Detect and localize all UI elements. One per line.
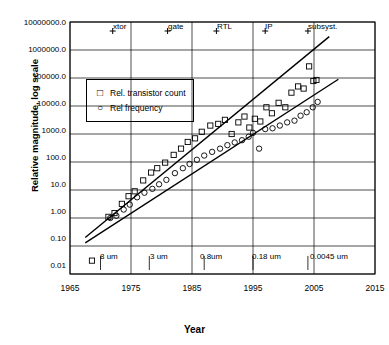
plot-canvas — [0, 0, 389, 345]
chart-root: Relative magnitude, log scale Year 10000… — [0, 0, 389, 345]
